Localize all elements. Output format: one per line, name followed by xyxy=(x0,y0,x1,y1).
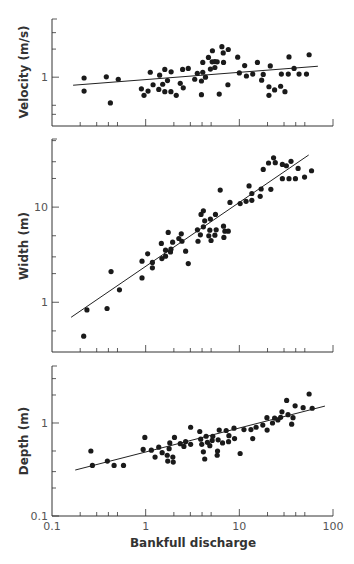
data-point xyxy=(285,412,290,417)
data-point xyxy=(199,78,204,83)
data-point xyxy=(186,66,191,71)
data-point xyxy=(180,67,185,72)
regression-line xyxy=(71,155,309,317)
data-point xyxy=(197,429,202,434)
data-point xyxy=(171,459,176,464)
data-point xyxy=(157,73,162,78)
data-point xyxy=(201,208,206,213)
data-point xyxy=(210,434,215,439)
data-point xyxy=(202,456,207,461)
data-point xyxy=(248,427,253,432)
data-point xyxy=(310,406,315,411)
data-point xyxy=(111,463,116,468)
data-point xyxy=(156,445,161,450)
data-point xyxy=(266,160,271,165)
data-point xyxy=(212,65,217,70)
data-point xyxy=(286,54,291,59)
data-point xyxy=(208,238,213,243)
data-point xyxy=(179,231,184,236)
data-point xyxy=(201,449,206,454)
data-point xyxy=(162,67,167,72)
data-point xyxy=(284,398,289,403)
data-point xyxy=(232,436,237,441)
y-axis-label: Width (m) xyxy=(17,212,31,280)
data-point xyxy=(160,82,165,87)
data-point xyxy=(241,427,246,432)
data-point xyxy=(261,167,266,172)
data-point xyxy=(108,100,113,105)
x-tick-label: 1 xyxy=(142,520,149,533)
data-point xyxy=(268,187,273,192)
data-point xyxy=(203,75,208,80)
data-point xyxy=(174,93,179,98)
data-point xyxy=(238,201,243,206)
data-point xyxy=(195,227,200,232)
data-point xyxy=(141,447,146,452)
data-point xyxy=(307,391,312,396)
y-tick-label: 1 xyxy=(41,296,48,309)
data-point xyxy=(249,191,254,196)
y-axis-label: Depth (m) xyxy=(17,407,31,476)
data-point xyxy=(307,52,312,57)
data-point xyxy=(264,415,269,420)
y-tick-label: 10 xyxy=(34,201,48,214)
data-point xyxy=(296,71,301,76)
data-point xyxy=(271,155,276,160)
data-point xyxy=(246,183,251,188)
data-point xyxy=(165,453,170,458)
data-point xyxy=(242,63,247,68)
data-point xyxy=(280,176,285,181)
data-point xyxy=(198,437,203,442)
data-point xyxy=(141,93,146,98)
data-point xyxy=(266,84,271,89)
data-point xyxy=(145,88,150,93)
data-point xyxy=(201,224,206,229)
data-point xyxy=(218,187,223,192)
data-point xyxy=(214,227,219,232)
data-point xyxy=(219,44,224,49)
data-point xyxy=(220,440,225,445)
data-point xyxy=(282,89,287,94)
data-point xyxy=(284,163,289,168)
data-point xyxy=(188,442,193,447)
data-point xyxy=(168,89,173,94)
data-point xyxy=(208,67,213,72)
data-point xyxy=(165,458,170,463)
data-point xyxy=(221,235,226,240)
data-point xyxy=(105,458,110,463)
data-point xyxy=(266,93,271,98)
data-point xyxy=(216,437,221,442)
data-point xyxy=(148,70,153,75)
data-point xyxy=(279,71,284,76)
data-point xyxy=(139,86,144,91)
data-point xyxy=(202,218,207,223)
data-point xyxy=(170,454,175,459)
data-point xyxy=(150,265,155,270)
data-point xyxy=(227,200,232,205)
data-point xyxy=(149,448,154,453)
data-point xyxy=(104,306,109,311)
data-point xyxy=(152,454,157,459)
data-point xyxy=(150,260,155,265)
data-point xyxy=(295,166,300,171)
data-point xyxy=(253,425,258,430)
data-point xyxy=(255,60,260,65)
data-point xyxy=(204,434,209,439)
data-point xyxy=(213,212,218,217)
data-point xyxy=(108,269,113,274)
data-point xyxy=(179,239,184,244)
data-point xyxy=(208,217,213,222)
data-point xyxy=(183,249,188,254)
data-point xyxy=(289,422,294,427)
data-point xyxy=(170,240,175,245)
y-axis-label: Velocity (m/s) xyxy=(17,25,31,118)
data-point xyxy=(90,463,95,468)
data-point xyxy=(286,176,291,181)
data-point xyxy=(165,78,170,83)
data-point xyxy=(188,425,193,430)
data-point xyxy=(259,78,264,83)
data-point xyxy=(207,443,212,448)
data-point xyxy=(238,451,243,456)
data-point xyxy=(139,275,144,280)
data-point xyxy=(217,427,222,432)
